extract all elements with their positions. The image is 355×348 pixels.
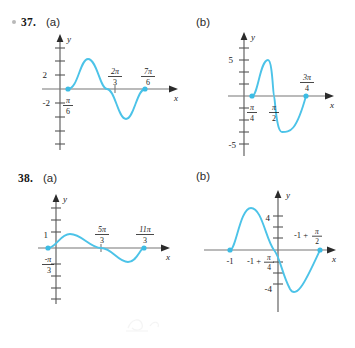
bullet-dot-icon [12,20,16,24]
curve-point-start-38a [45,245,50,250]
x-label-denominator: 3 [47,266,51,275]
graph-37b: y x 5 -5 π 4 π 2 3π 4 [200,24,350,164]
x-label-pi-over-6-37a: π 6 [63,96,73,116]
x-label-neg1-plus-pi-over-4-38b: -1 + π 4 [247,253,274,272]
x-axis-label-37b: x [329,100,334,110]
x-label-numerator: -π [45,255,53,264]
x-label-5pi-over-3-38a: 5π 3 [95,225,109,245]
x-label-numerator: π [267,253,271,262]
x-label-7pi-over-6-37a: 7π 6 [141,67,155,87]
x-label-numerator: 3π [302,73,312,82]
scan-artifact [122,314,166,336]
x-label-3pi-over-4-37b: 3π 4 [300,73,314,93]
x-axis-arrow-icon [325,92,334,99]
x-label-prefix: -1 + [247,256,261,266]
graph-37a: y x 2 -2 π 6 2π 3 7π 6 [26,28,186,158]
y-tick-label-1-38a: 1 [44,230,49,240]
curve-point-end-38b [317,247,322,252]
x-label-denominator: 4 [305,84,309,93]
x-label-numerator: 11π [139,225,151,234]
x-label-numerator: 2π [111,67,120,76]
x-label-denominator: 2 [315,237,319,246]
problem-38-part-b-label: (b) [196,170,210,182]
y-tick-label-4-38b: 4 [266,213,271,223]
y-tick-label-2-37a: 2 [43,70,48,80]
y-axis-arrow-icon [275,190,282,198]
x-label-denominator: 3 [143,236,147,245]
x-label-denominator: 4 [267,263,271,272]
x-label-11pi-over-3-38a: 11π 3 [136,225,154,245]
textbook-page: 37. (a) (b) [0,0,355,348]
x-axis-arrow-icon [161,244,170,251]
y-tick-label-neg4-38b: -4 [265,284,273,294]
problem-38-part-a-label: (a) [43,172,57,184]
x-label-denominator: 4 [250,114,254,123]
x-label-numerator: π [66,96,71,105]
y-tick-label-neg5-37b: -5 [229,140,237,150]
x-label-denominator: 6 [146,78,150,87]
curve-point-start-38b [227,247,232,252]
problem-38-number: 38. [18,172,33,184]
y-axis-label-38a: y [62,194,67,204]
x-label-denominator: 6 [66,107,70,116]
y-tick-label-5-37b: 5 [229,55,234,65]
x-axis-label-38a: x [165,252,170,262]
y-axis-arrow-icon [53,194,60,202]
x-label-numerator: 5π [98,225,107,234]
curve-point-end-38a [141,245,146,250]
problem-37-part-a-label: (a) [46,16,60,28]
curve-point-end-37a [142,86,147,91]
x-label-numerator: π [315,227,319,236]
problem-37-number: 37. [21,16,36,28]
x-label-denominator: 3 [113,78,117,87]
y-axis-label-38b: y [285,190,290,200]
problem-38-part-b-header: (b) [196,166,210,184]
x-label-2pi-over-3-37a: 2π 3 [108,67,122,87]
x-axis-label-38b: x [331,254,336,264]
problem-38-header: 38. (a) [18,168,57,186]
y-axis-label-37a: y [66,34,71,44]
curve-point-end-37b [303,93,308,98]
x-axis-arrow-icon [169,85,178,92]
x-label-neg-pi-over-3-38a: -π 3 [42,255,54,275]
curve-point-start-37a [65,86,70,91]
x-label-neg1-38b: -1 [226,256,233,266]
x-label-denominator: 3 [100,236,104,245]
x-label-numerator: π [250,103,255,112]
graph-38b: y x 4 -4 -1 -1 + π 4 -1 + π 2 [196,184,354,316]
x-axis-arrow-icon [327,246,336,253]
x-label-numerator: 7π [144,67,153,76]
x-label-neg1-plus-pi-over-2-38b: -1 + π 2 [294,227,322,246]
x-label-denominator: 2 [272,114,276,123]
y-tick-label-neg2-37a: -2 [43,98,51,108]
curve-point-start-37b [249,93,254,98]
graph-38a: y x 1 -π 3 5π 3 11π 3 [24,186,189,311]
x-axis-label-37a: x [173,93,178,103]
y-axis-arrow-icon [241,32,248,40]
y-axis-arrow-icon [57,34,64,42]
y-axis-label-37b: y [250,32,255,42]
x-label-prefix: -1 + [294,230,308,240]
